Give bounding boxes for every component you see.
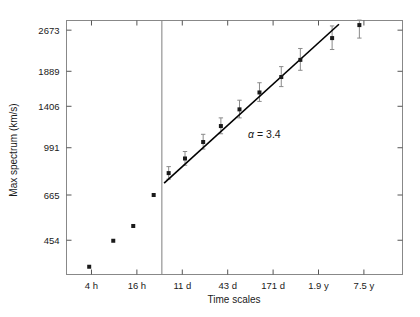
alpha-value: = 3.4 bbox=[254, 128, 281, 140]
x-tick-label: 16 h bbox=[128, 280, 147, 291]
data-point-marker bbox=[298, 58, 302, 62]
y-tick-label: 2673 bbox=[38, 25, 59, 36]
data-point-marker bbox=[330, 36, 334, 40]
x-tick-label: 4 h bbox=[85, 280, 98, 291]
data-point-marker bbox=[131, 224, 135, 228]
slope-annotation: α = 3.4 bbox=[248, 128, 281, 140]
y-tick-label: 665 bbox=[44, 190, 60, 201]
chart-background bbox=[0, 0, 420, 317]
y-tick-label: 1406 bbox=[38, 101, 59, 112]
y-tick-label: 1889 bbox=[38, 66, 59, 77]
x-tick-label: 43 d bbox=[218, 280, 237, 291]
data-point-marker bbox=[183, 156, 187, 160]
data-point-marker bbox=[167, 171, 171, 175]
x-tick-label: 171 d bbox=[261, 280, 285, 291]
chart-canvas: 454665991140618892673 4 h16 h11 d43 d171… bbox=[0, 0, 420, 317]
slope-annotation-text: α = 3.4 bbox=[248, 128, 281, 140]
data-point-marker bbox=[257, 90, 261, 94]
data-point-marker bbox=[357, 23, 361, 27]
data-point-marker bbox=[152, 193, 156, 197]
figure-container: 454665991140618892673 4 h16 h11 d43 d171… bbox=[0, 0, 420, 317]
data-point-marker bbox=[87, 265, 91, 269]
x-tick-label: 1.9 y bbox=[308, 280, 329, 291]
data-point-marker bbox=[111, 239, 115, 243]
data-point-marker bbox=[219, 124, 223, 128]
y-axis-title: Max spectrum (km/s) bbox=[8, 103, 19, 196]
y-tick-label: 991 bbox=[44, 142, 60, 153]
x-tick-label: 7.5 y bbox=[354, 280, 375, 291]
x-axis-title: Time scales bbox=[208, 294, 261, 305]
y-tick-label: 454 bbox=[44, 235, 60, 246]
data-point-marker bbox=[237, 107, 241, 111]
data-point-marker bbox=[201, 140, 205, 144]
x-tick-label: 11 d bbox=[173, 280, 191, 291]
data-point-marker bbox=[279, 75, 283, 79]
